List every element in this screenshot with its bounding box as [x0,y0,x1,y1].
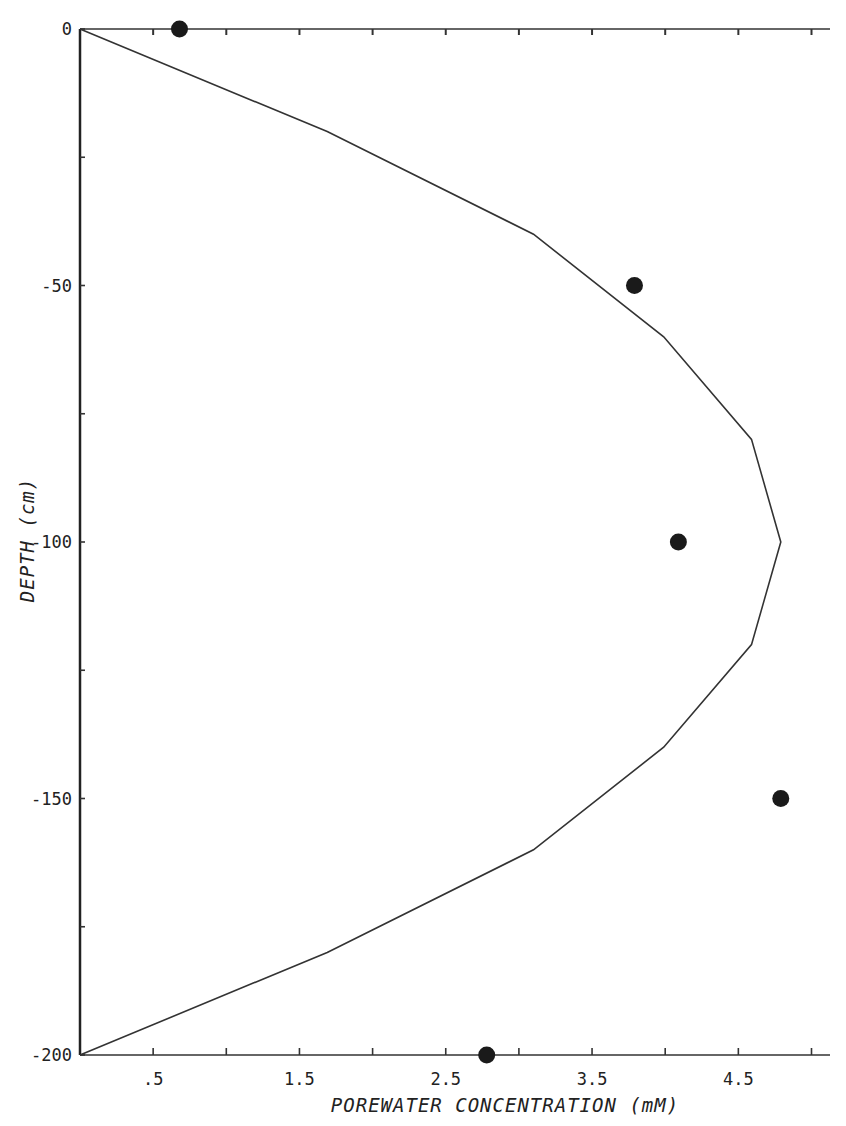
depth-profile-chart: .51.52.53.54.50-50-100-150-200 POREWATER… [0,0,846,1126]
x-tick-label: .5 [143,1069,163,1089]
data-points [171,21,789,1064]
y-tick-label: -200 [31,1045,72,1065]
y-tick-label: 0 [62,19,72,39]
data-point-marker [478,1047,495,1064]
data-point-marker [772,790,789,807]
y-tick-label: -50 [41,276,72,296]
x-tick-label: 3.5 [577,1069,608,1089]
y-tick-label: -150 [31,789,72,809]
data-point-marker [171,21,188,38]
data-point-marker [626,277,643,294]
axes: .51.52.53.54.50-50-100-150-200 [31,19,830,1089]
x-tick-label: 4.5 [723,1069,754,1089]
y-axis-title: DEPTH (cm) [16,478,38,603]
x-axis-title: POREWATER CONCENTRATION (mM) [331,1094,679,1116]
data-point-marker [670,534,687,551]
x-tick-label: 1.5 [284,1069,315,1089]
x-tick-label: 2.5 [430,1069,461,1089]
